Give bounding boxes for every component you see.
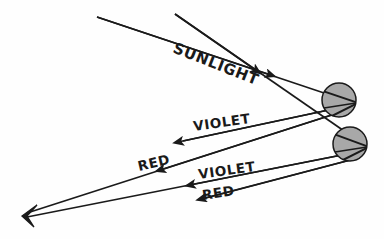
diagram-canvas: SUNLIGHT VIOLET RED VIOLET RED xyxy=(0,0,384,239)
ray-diagram-svg: SUNLIGHT VIOLET RED VIOLET RED xyxy=(0,0,384,239)
